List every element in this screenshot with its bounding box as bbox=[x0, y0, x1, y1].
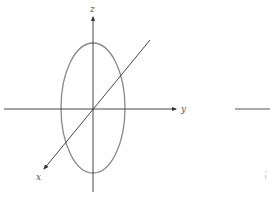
y-axis-label: y bbox=[180, 104, 187, 114]
diagram-canvas: z y x bbox=[0, 0, 270, 197]
z-axis-label: z bbox=[89, 4, 95, 14]
fragment-mark bbox=[265, 171, 266, 179]
x-axis-label: x bbox=[36, 172, 41, 182]
x-axis bbox=[44, 40, 150, 169]
